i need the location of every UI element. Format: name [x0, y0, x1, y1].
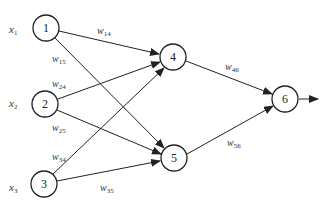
node-4: 4 [160, 44, 186, 70]
weight-label-w46: w46 [225, 61, 239, 74]
edge-3-5 [57, 161, 160, 181]
node-6: 6 [272, 86, 298, 112]
input-label-x2: x2 [8, 97, 18, 111]
node-3: 3 [31, 171, 57, 197]
node-label: 4 [170, 50, 176, 64]
node-2: 2 [32, 91, 58, 117]
edge-2-5 [57, 110, 161, 154]
input-label-x3: x3 [8, 181, 18, 195]
weight-label-w15: w15 [52, 53, 66, 66]
node-label: 6 [282, 92, 288, 106]
weight-label-w24: w24 [52, 78, 66, 91]
weight-label-w56: w56 [227, 137, 241, 150]
weight-label-w25: w25 [52, 122, 66, 135]
edge-2-4 [58, 62, 160, 99]
weight-label-w34: w34 [52, 151, 66, 164]
weight-label-w14: w14 [97, 25, 111, 38]
edge-3-4 [53, 68, 164, 174]
edge-1-5 [55, 38, 164, 148]
node-label: 5 [171, 151, 177, 165]
neural-network-diagram: 1 2 3 4 5 6 x1 x2 x3 w14 w15 w24 w25 w34… [0, 0, 323, 209]
node-1: 1 [33, 15, 59, 41]
node-label: 3 [41, 177, 47, 191]
weight-label-w35: w35 [100, 182, 114, 195]
node-5: 5 [161, 145, 187, 171]
node-label: 1 [43, 21, 49, 35]
node-label: 2 [42, 97, 48, 111]
input-label-x1: x1 [8, 23, 18, 37]
